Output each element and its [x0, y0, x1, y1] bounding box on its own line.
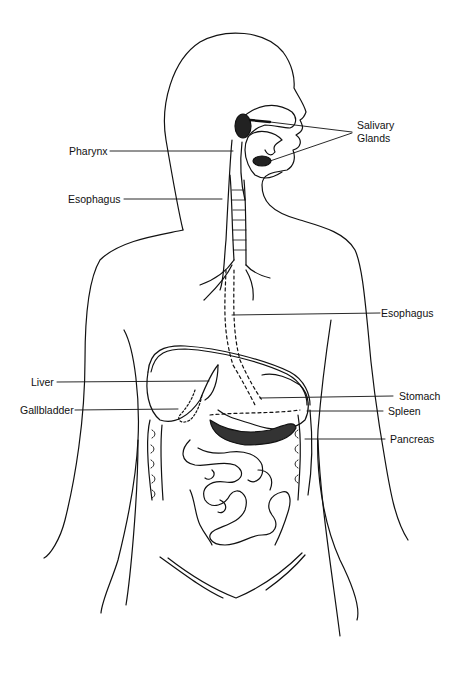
label-liver: Liver	[31, 376, 54, 388]
label-esophagus-lower: Esophagus	[381, 307, 434, 319]
descending-haustra	[295, 430, 298, 483]
pelvis-line-2	[168, 553, 302, 598]
small-intestine	[183, 440, 290, 545]
digestive-system-diagram	[0, 0, 463, 673]
small-intestine-2	[190, 448, 272, 545]
esophagus-dashed	[225, 270, 262, 405]
descending-colon-2	[308, 410, 312, 495]
label-gallbladder: Gallbladder	[20, 404, 74, 416]
arm-line-left	[101, 330, 138, 613]
label-spleen: Spleen	[388, 405, 421, 417]
pelvis-line-3	[266, 555, 305, 590]
leader-liver	[57, 381, 209, 382]
colon-inner-left	[161, 425, 163, 500]
leader-lines	[57, 122, 393, 439]
leader-salivary-2	[270, 133, 352, 161]
label-salivary-glands-line2: Glands	[357, 132, 390, 144]
label-esophagus-upper: Esophagus	[68, 193, 121, 205]
label-stomach: Stomach	[399, 390, 440, 402]
neck-left	[44, 230, 183, 558]
ascending-colon-haustra	[151, 430, 155, 498]
torso-right	[318, 440, 340, 636]
pelvis-line-1	[160, 557, 223, 598]
leader-esophagus-lower	[232, 313, 380, 315]
stomach	[218, 374, 308, 429]
leader-gallbladder	[75, 409, 178, 410]
descending-colon	[298, 415, 300, 500]
label-pharynx: Pharynx	[69, 145, 108, 157]
label-pancreas: Pancreas	[390, 433, 434, 445]
bronchi	[200, 260, 270, 300]
stomach-dashed-curve	[210, 410, 300, 415]
submandibular-gland	[253, 156, 271, 166]
arm-line-right	[318, 320, 358, 620]
parotid-gland	[235, 114, 251, 138]
leader-stomach	[260, 396, 393, 398]
label-salivary-glands-line1: Salivary	[357, 119, 394, 131]
tongue	[250, 131, 282, 154]
trachea-rings	[232, 190, 246, 250]
parotid-duct	[250, 120, 270, 122]
